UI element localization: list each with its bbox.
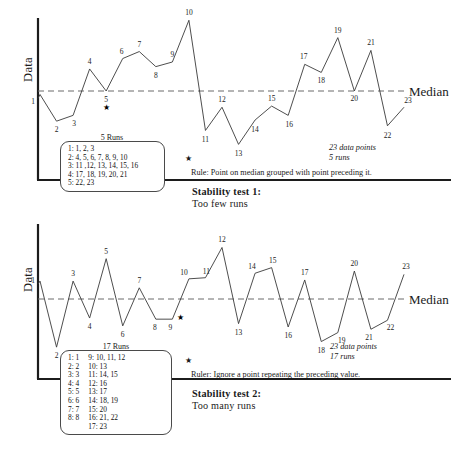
point-label: 3 [72,119,76,128]
stability-test-1-chart: Data Median 1234567891011121314151617181… [0,0,451,225]
runs-legend-box-1: 1: 1, 2, 32: 4, 5, 6, 7, 8, 9, 103: 11 ,… [60,141,165,192]
point-label: 2 [55,351,59,360]
point-label: 22 [387,323,395,332]
point-label: 11 [202,135,209,144]
caption-title-1: Stability test 1: [192,186,261,197]
point-label: 11 [203,266,210,275]
point-label: 16 [285,120,293,129]
point-label: 12 [218,95,226,104]
point-label: 9 [168,323,172,332]
stability-test-2-chart: Data Median 1234567891011121314151617181… [0,222,451,460]
rule-star-icon-2: ★ [185,357,192,365]
point-label: 4 [88,56,92,65]
star-marker-icon: ★ [177,314,184,322]
point-label: 21 [365,333,373,342]
point-label: 18 [318,345,326,354]
rule-text-2: Ruler: Ignore a point repeating the prec… [191,370,360,379]
point-label: 9 [170,50,174,59]
caption-subtitle-2: Too many runs [192,400,261,411]
point-label: 23 [404,96,412,105]
summary-line: 17 runs [330,352,377,362]
point-label: 4 [88,322,92,331]
point-label: 12 [218,235,226,244]
point-label: 20 [351,259,359,268]
point-label: 10 [185,8,193,17]
summary-text-1: 23 data points5 runs [329,143,376,163]
caption-title-2: Stability test 2: [192,388,261,399]
point-label: 16 [284,331,292,340]
y-axis-label-1: Data [21,57,36,82]
median-line-label-1: Median [409,84,449,100]
point-label: 10 [180,267,188,276]
rule-star-icon-1: ★ [185,155,192,163]
median-line-label-2: Median [409,292,449,308]
point-label: 20 [351,94,359,103]
point-label: 19 [334,25,342,34]
point-label: 23 [402,262,410,271]
caption-1: Stability test 1: Too few runs [192,186,261,209]
point-label: 3 [71,269,75,278]
caption-2: Stability test 2: Too many runs [192,388,261,411]
point-label: 21 [367,38,375,47]
point-label: 17 [301,267,309,276]
point-label: 6 [120,46,124,55]
point-label: 15 [268,94,276,103]
rule-text-1: Rule: Point on median grouped with point… [191,168,372,177]
point-label: 22 [384,130,392,139]
point-label: 14 [248,262,256,271]
runs-legend-column: 1: 1, 2, 32: 4, 5, 6, 7, 8, 9, 103: 11 ,… [68,145,138,188]
runs-legend-line: 8: 8 [68,414,79,423]
star-marker-icon: ★ [103,104,110,112]
runs-legend-box-2: 1: 12: 23: 34: 45: 56: 67: 78: 89: 10, 1… [60,350,172,435]
point-label: 7 [137,39,141,48]
summary-line: 23 data points [329,143,376,153]
point-label: 18 [318,76,326,85]
runs-legend-column: 9: 10, 11, 1210: 1311: 14, 1512: 1613: 1… [88,354,125,431]
point-label: 7 [137,275,141,284]
summary-text-2: 23 data points17 runs [330,342,377,362]
caption-subtitle-1: Too few runs [192,198,261,209]
point-label: 8 [153,323,157,332]
point-label: 2 [55,125,59,134]
point-label: 5 [104,246,108,255]
runs-legend-column: 1: 12: 23: 34: 45: 56: 67: 78: 8 [68,354,79,431]
point-label: 1 [31,97,35,106]
runs-legend-line: 5: 22, 23 [68,179,138,188]
point-label: 17 [300,52,308,61]
point-label: 13 [235,327,243,336]
point-label: 14 [251,125,259,134]
point-label: 1 [31,276,35,285]
summary-line: 23 data points [330,342,377,352]
point-label: 15 [269,255,277,264]
runs-legend-line: 17: 23 [88,423,125,432]
point-label: 13 [235,149,243,158]
summary-line: 5 runs [329,153,376,163]
point-label: 6 [121,329,125,338]
point-label: 8 [154,70,158,79]
